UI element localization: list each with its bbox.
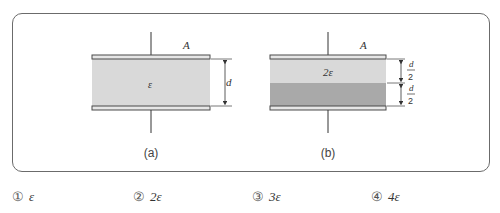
- caption-a: (a): [144, 146, 159, 160]
- fraction-bottom-numerator: d: [409, 83, 414, 93]
- choice-1[interactable]: ①ε: [12, 189, 34, 205]
- caption-b: (b): [321, 146, 336, 160]
- choice-2[interactable]: ②2ε: [133, 189, 162, 205]
- top-plate-a: [92, 55, 210, 59]
- bottom-plate-a: [92, 106, 210, 110]
- top-plate-b: [270, 55, 386, 59]
- choice-value: 3ε: [269, 189, 281, 204]
- dielectric-label-a: ε: [148, 79, 152, 90]
- capacitor-diagrams: A ε d (a) A 2ε d 2 d 2 (b): [0, 0, 500, 213]
- area-label-b: A: [359, 39, 367, 51]
- choice-value: 4ε: [388, 189, 400, 204]
- answer-choices: ①ε ②2ε ③3ε ④4ε: [0, 189, 500, 209]
- choice-number: ④: [371, 189, 383, 204]
- choice-value: 2ε: [150, 189, 162, 204]
- capacitor-b: A 2ε d 2 d 2 (b): [270, 32, 415, 160]
- choice-number: ①: [12, 189, 24, 204]
- fraction-top-denominator: 2: [408, 72, 413, 82]
- choice-number: ③: [252, 189, 264, 204]
- fraction-top-numerator: d: [409, 59, 414, 69]
- capacitor-a: A ε d (a): [92, 32, 232, 160]
- dimension-label-a: d: [226, 76, 232, 88]
- choice-number: ②: [133, 189, 145, 204]
- dielectric-label-b: 2ε: [323, 66, 334, 78]
- area-label-a: A: [182, 39, 190, 51]
- dielectric-bottom-b: [270, 83, 386, 106]
- choice-value: ε: [29, 189, 34, 204]
- choice-3[interactable]: ③3ε: [252, 189, 281, 205]
- fraction-bottom-denominator: 2: [408, 96, 413, 106]
- bottom-plate-b: [270, 106, 386, 110]
- choice-4[interactable]: ④4ε: [371, 189, 400, 205]
